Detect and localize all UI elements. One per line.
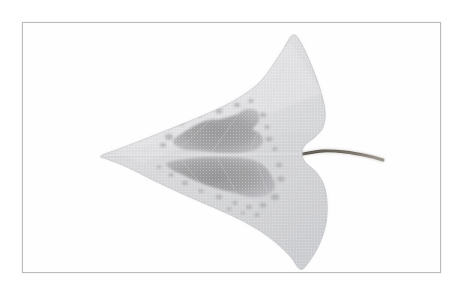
leaf-surface-detail [23,23,441,273]
specimen-plate-frame [22,22,441,273]
leaf-petiole-group [302,151,383,160]
leaf-specimen-image [23,23,441,273]
scan-texture [23,23,441,273]
figure-root: triangular hastate leaf with two basal l… [0,0,455,285]
